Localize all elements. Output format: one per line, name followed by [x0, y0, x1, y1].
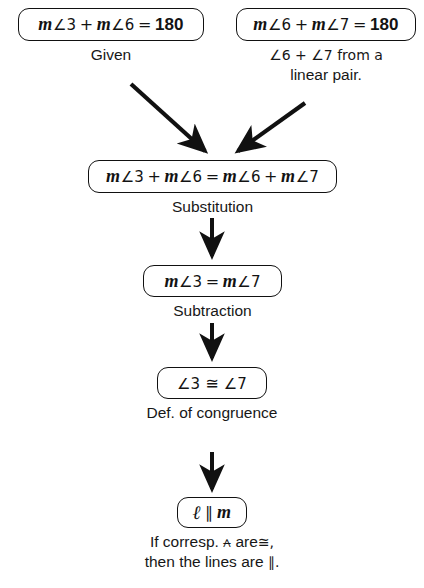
measure-symbol: m [38, 14, 53, 35]
angle-6-label: ∠6 [237, 168, 260, 186]
reason-linear-pair-line1: ∠6 + ∠7 from a [269, 47, 383, 63]
congruent-icon: ≅, [258, 534, 274, 550]
measure-symbol: m [97, 14, 112, 35]
reason-final-line1-a: If corresp. [150, 533, 219, 550]
measure-symbol: m [223, 166, 238, 187]
angle-7-label: ∠7 [296, 168, 319, 186]
equals-operator: = [134, 15, 155, 34]
equals-operator: = [202, 167, 223, 186]
line-ell-label: ℓ [193, 502, 201, 524]
angle-3-label: ∠3 [177, 375, 200, 393]
measure-symbol: m [312, 14, 327, 35]
reason-given: Given [18, 45, 204, 65]
statement-box-congruence: ∠3≅∠7 [157, 367, 267, 399]
measure-symbol: m [281, 166, 296, 187]
arrow-given-left-to-substitution [131, 84, 205, 151]
angle-6-label: ∠6 [268, 16, 291, 34]
measure-symbol: m [223, 271, 238, 292]
reason-given-text: Given [91, 46, 132, 63]
parallel-icon: ∥. [268, 554, 279, 570]
angles-plural-icon: ⩜ [223, 534, 231, 550]
reason-final-line1-b: are [235, 533, 257, 550]
reason-substitution-text: Substitution [172, 198, 253, 215]
measure-symbol: m [106, 166, 121, 187]
plus-operator: + [76, 15, 97, 34]
statement-box-given-left: m∠3+m∠6=180 [18, 8, 204, 41]
reason-subtraction: Subtraction [143, 301, 282, 321]
value-180: 180 [155, 15, 184, 35]
plus-operator: + [261, 167, 282, 186]
statement-box-subtraction: m∠3=m∠7 [143, 265, 282, 297]
value-180: 180 [370, 15, 399, 35]
parallel-operator: ∥ [201, 503, 217, 522]
plus-operator: + [144, 167, 165, 186]
reason-corresponding-angles: If corresp. ⩜ are≅, then the lines are ∥… [97, 532, 327, 572]
arrow-given-right-to-substitution [238, 103, 305, 151]
angle-7-label: ∠7 [237, 273, 260, 291]
angle-6-label: ∠6 [111, 16, 134, 34]
reason-subtraction-text: Subtraction [173, 302, 251, 319]
reason-linear-pair-line2: linear pair. [290, 66, 362, 83]
reason-substitution: Substitution [88, 197, 337, 217]
reason-linear-pair: ∠6 + ∠7 from a linear pair. [236, 45, 416, 85]
flow-proof-diagram: m∠3+m∠6=180 Given m∠6+m∠7=180 ∠6 + ∠7 fr… [0, 0, 424, 588]
angle-3-label: ∠3 [53, 16, 76, 34]
angle-7-label: ∠7 [326, 16, 349, 34]
angle-3-label: ∠3 [179, 273, 202, 291]
measure-symbol: m [164, 271, 179, 292]
reason-def-congruence-text: Def. of congruence [147, 404, 278, 421]
angle-7-label: ∠7 [224, 375, 247, 393]
statement-box-substitution: m∠3+m∠6=m∠6+m∠7 [88, 160, 337, 193]
angle-6-label: ∠6 [179, 168, 202, 186]
equals-operator: = [349, 15, 370, 34]
reason-def-congruence: Def. of congruence [112, 403, 312, 423]
measure-symbol: m [164, 166, 179, 187]
equals-operator: = [202, 272, 223, 291]
angle-3-label: ∠3 [121, 168, 144, 186]
line-m-label: m [217, 502, 231, 523]
congruent-operator: ≅ [200, 374, 224, 393]
measure-symbol: m [253, 14, 268, 35]
statement-box-conclusion: ℓ∥m [177, 497, 247, 528]
reason-final-line2-a: then the lines are [145, 553, 264, 570]
statement-box-given-right: m∠6+m∠7=180 [236, 8, 416, 41]
plus-operator: + [291, 15, 312, 34]
